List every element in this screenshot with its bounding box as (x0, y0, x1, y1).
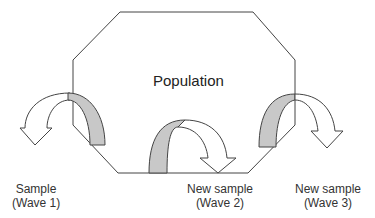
sample-wave-1-label: Sample (Wave 1) (12, 182, 60, 210)
sample-wave-2-line2: (Wave 2) (186, 196, 254, 210)
wave-3-arrow (259, 94, 343, 148)
sample-wave-2-label: New sample (Wave 2) (186, 182, 254, 210)
sample-wave-3-label: New sample (Wave 3) (294, 182, 362, 210)
sample-wave-1-line2: (Wave 1) (12, 196, 60, 210)
sample-wave-2-line1: New sample (186, 182, 254, 196)
wave-1-arrow (20, 93, 105, 145)
population-label: Population (153, 72, 224, 89)
sample-wave-3-line1: New sample (294, 182, 362, 196)
wave-2-arrow (149, 120, 236, 173)
sample-wave-1-line1: Sample (12, 182, 60, 196)
sample-wave-3-line2: (Wave 3) (294, 196, 362, 210)
population-octagon (73, 12, 295, 173)
